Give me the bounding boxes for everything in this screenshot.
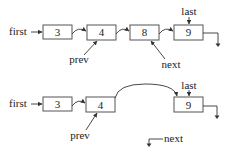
node-4: 4 [87, 25, 116, 40]
first-label: first [9, 97, 27, 109]
link-arrow-icon [72, 101, 85, 106]
node-4: 4 [86, 97, 115, 112]
node-value: 9 [186, 99, 192, 111]
node-9: 9 [174, 25, 203, 40]
top-diagram: first 3 4 8 9 last [9, 5, 221, 70]
node-value: 3 [55, 98, 61, 110]
prev-label: prev [69, 53, 89, 65]
prev-arrow-icon [86, 113, 97, 130]
prev-label: prev [70, 129, 90, 141]
node-value: 4 [99, 26, 105, 38]
next-null-pointer-icon [147, 139, 164, 147]
link-arrow-icon [159, 29, 173, 34]
node-3: 3 [43, 97, 72, 111]
bypass-link-arrow-icon [115, 84, 177, 98]
next-arrow-icon [151, 41, 165, 59]
first-label: first [9, 25, 27, 37]
linked-list-diagram: first 3 4 8 9 last [0, 0, 234, 156]
last-label: last [181, 79, 196, 91]
node-value: 9 [186, 26, 192, 38]
node-8: 8 [130, 25, 159, 40]
null-pointer-icon [203, 33, 221, 47]
next-label: next [164, 132, 183, 144]
null-pointer-icon [203, 106, 220, 119]
node-9: 9 [174, 97, 203, 112]
node-value: 8 [142, 26, 148, 38]
next-label: next [162, 58, 181, 70]
link-arrow-icon [72, 29, 86, 34]
prev-arrow-icon [84, 41, 97, 55]
last-label: last [181, 5, 196, 17]
node-value: 4 [98, 99, 104, 111]
node-3: 3 [43, 25, 72, 39]
link-arrow-icon [116, 29, 129, 34]
node-value: 3 [55, 26, 61, 38]
bottom-diagram: first 3 4 9 last prev [9, 79, 220, 147]
